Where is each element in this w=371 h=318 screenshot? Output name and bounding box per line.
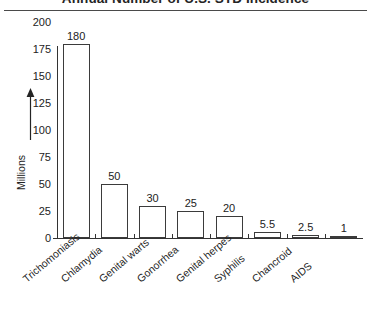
bar: [292, 235, 319, 238]
bar: [63, 44, 90, 238]
y-axis-tick-label: 175: [21, 44, 51, 55]
x-axis-tick: [134, 234, 135, 238]
y-axis-tick-label: 125: [21, 98, 51, 109]
bar-value-label: 1: [322, 223, 365, 234]
x-axis-tick: [57, 234, 58, 238]
x-axis-tick: [95, 234, 96, 238]
x-axis-tick: [325, 234, 326, 238]
bar-value-label: 180: [55, 31, 98, 42]
y-axis-tick-label: 0: [21, 233, 51, 244]
bar-value-label: 30: [131, 193, 174, 204]
bar-value-label: 25: [169, 198, 212, 209]
bar-value-label: 20: [208, 203, 251, 214]
bar-value-label: 50: [93, 171, 136, 182]
x-axis-tick: [210, 234, 211, 238]
bar-chart-plot: Millions 0255075100125150175200180Tricho…: [0, 0, 371, 318]
bar: [254, 232, 281, 238]
x-axis-tick: [287, 234, 288, 238]
y-axis-tick-label: 150: [21, 71, 51, 82]
x-axis-line: [57, 238, 363, 239]
bar: [139, 206, 166, 238]
y-axis-tick-label: 100: [21, 125, 51, 136]
y-axis-tick-label: 25: [21, 206, 51, 217]
x-axis-category-label: AIDS: [288, 260, 314, 284]
x-axis-tick: [172, 234, 173, 238]
y-axis-tick: [53, 238, 57, 239]
y-axis-tick-label: 50: [21, 179, 51, 190]
x-axis-category-label: Syphilis: [212, 253, 246, 284]
x-axis-tick: [248, 234, 249, 238]
y-axis-tick-label: 200: [21, 17, 51, 28]
x-axis-category-label: Chancroid: [250, 245, 293, 284]
bar: [177, 211, 204, 238]
bar: [101, 184, 128, 238]
y-axis-line: [57, 46, 58, 238]
bar-value-label: 2.5: [284, 222, 327, 233]
y-axis-tick-label: 75: [21, 152, 51, 163]
bar-value-label: 5.5: [246, 219, 289, 230]
bar: [330, 236, 357, 238]
